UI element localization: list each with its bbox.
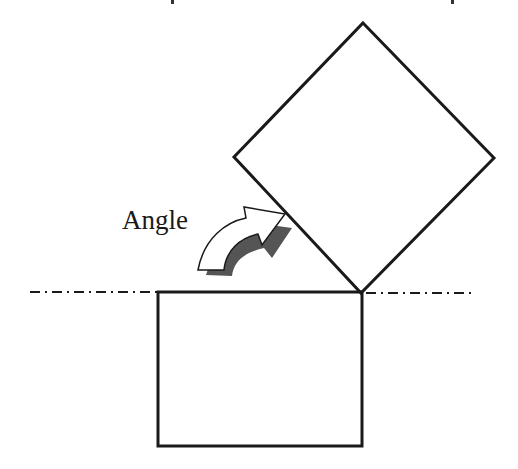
angle-label: Angle [122,207,188,234]
diagram-svg [0,0,518,469]
clipped-text-fragment [171,0,174,4]
clipped-text-fragment [451,0,454,4]
base-rectangle [158,292,362,446]
